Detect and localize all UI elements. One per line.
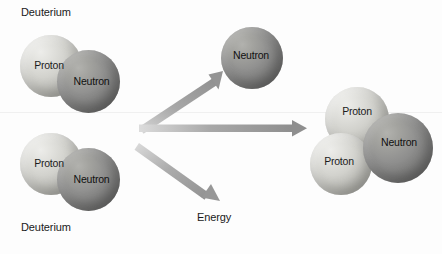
deuterium-bottom-neutron: Neutron	[57, 148, 120, 211]
fusion-diagram: Deuterium Proton Neutron Proton Neutron …	[0, 0, 442, 254]
nucleus-neutron: Neutron	[363, 113, 433, 183]
arrow-to-nucleus-icon	[139, 120, 307, 137]
product-free-neutron-label: Neutron	[233, 49, 269, 61]
deuterium-bottom-proton-label: Proton	[34, 157, 64, 169]
nucleus-neutron-label: Neutron	[381, 136, 417, 148]
deuterium-bottom-caption: Deuterium	[21, 221, 71, 233]
deuterium-top-neutron-label: Neutron	[74, 75, 110, 87]
nucleus-proton-top-label: Proton	[342, 105, 372, 117]
nucleus-proton-bottom-label: Proton	[324, 155, 354, 167]
arrow-to-neutron-icon	[139, 71, 223, 134]
deuterium-top-neutron: Neutron	[57, 50, 120, 113]
energy-caption: Energy	[197, 211, 231, 223]
product-free-neutron: Neutron	[221, 27, 283, 89]
deuterium-top-proton-label: Proton	[34, 59, 64, 71]
deuterium-bottom-neutron-label: Neutron	[74, 173, 110, 185]
arrow-to-energy-icon	[135, 143, 221, 201]
deuterium-top-caption: Deuterium	[21, 6, 71, 18]
